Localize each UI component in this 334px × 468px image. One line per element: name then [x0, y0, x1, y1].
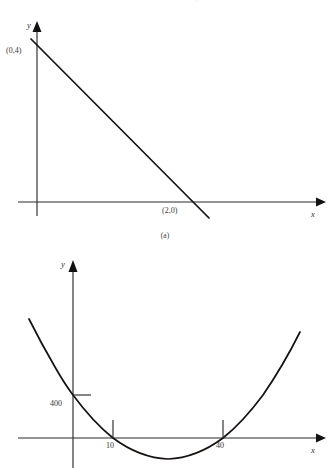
graph-b-svg — [0, 250, 334, 468]
figure-caption-a: (a) — [145, 232, 185, 240]
figure-panel-a: y x (0,4) (2,0) (a) — [0, 0, 334, 250]
y-axis-label-a: y — [27, 21, 31, 30]
x-axis-label-a: x — [311, 210, 315, 219]
y-axis-arrowhead-b — [69, 260, 78, 272]
line-graph-a — [31, 39, 209, 218]
figure-panel-b: y x 400 10 40 — [0, 250, 334, 468]
y-axis-label-b: y — [61, 260, 65, 269]
x-axis-label-b: x — [311, 446, 315, 455]
figure-page: y = -2x + 4 y x (0,4) (2,0) (a) — [0, 0, 334, 468]
x-tick-label-10: 10 — [106, 442, 114, 450]
y-tick-label-400: 400 — [50, 400, 62, 408]
x-axis-arrowhead-b — [316, 434, 326, 443]
x-axis-arrowhead-a — [316, 198, 326, 207]
point-label-x-intercept-a: (2,0) — [162, 207, 177, 215]
x-tick-label-40: 40 — [216, 442, 224, 450]
y-axis-arrowhead-a — [33, 21, 42, 32]
point-label-y-intercept-a: (0,4) — [6, 47, 21, 55]
